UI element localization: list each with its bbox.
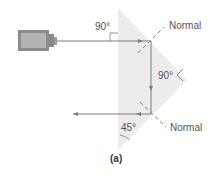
prism-diagram: 90° Normal 90° Normal 45° (a) xyxy=(0,0,219,176)
internal-angle-label: 90° xyxy=(158,70,173,81)
right-angle-marker xyxy=(110,33,118,41)
figure-caption: (a) xyxy=(110,153,122,164)
upper-normal-label: Normal xyxy=(169,20,201,31)
exit-arrow-end-icon xyxy=(73,112,78,116)
exit-angle-label: 45° xyxy=(121,122,136,133)
lower-normal-label: Normal xyxy=(170,122,202,133)
laser-source-icon xyxy=(18,30,57,51)
incident-angle-label: 90° xyxy=(95,21,110,32)
